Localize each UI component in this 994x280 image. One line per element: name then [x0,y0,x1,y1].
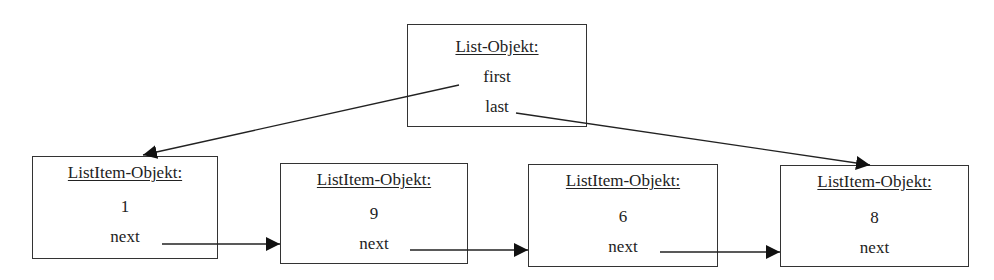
list-item-box-4: ListItem-Objekt: 8 next [780,165,969,267]
list-item-title: ListItem-Objekt: [33,163,217,183]
list-item-box-3: ListItem-Objekt: 6 next [528,164,718,267]
list-first-field: first [408,67,586,87]
list-item-title: ListItem-Objekt: [529,171,717,191]
list-object-box: List-Objekt: first last [407,24,587,127]
list-item-value: 9 [281,204,467,224]
list-item-box-2: ListItem-Objekt: 9 next [280,163,468,264]
list-item-next-field: next [781,238,968,258]
list-object-title: List-Objekt: [408,37,586,57]
list-item-value: 1 [33,197,217,217]
list-item-value: 6 [529,207,717,227]
list-item-value: 8 [781,208,968,228]
list-item-box-1: ListItem-Objekt: 1 next [32,156,218,259]
list-item-title: ListItem-Objekt: [781,172,968,192]
list-item-next-field: next [33,227,217,247]
list-last-field: last [408,97,586,117]
list-item-next-field: next [281,234,467,254]
list-item-next-field: next [529,237,717,257]
list-item-title: ListItem-Objekt: [281,170,467,190]
